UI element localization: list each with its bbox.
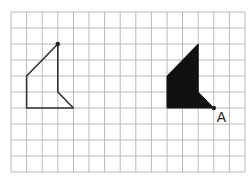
point-a-marker	[212, 106, 217, 111]
grid-lines	[11, 12, 245, 172]
vertex-marker	[56, 42, 61, 47]
point-a-label: A	[217, 109, 226, 125]
grid-diagram	[0, 0, 250, 179]
